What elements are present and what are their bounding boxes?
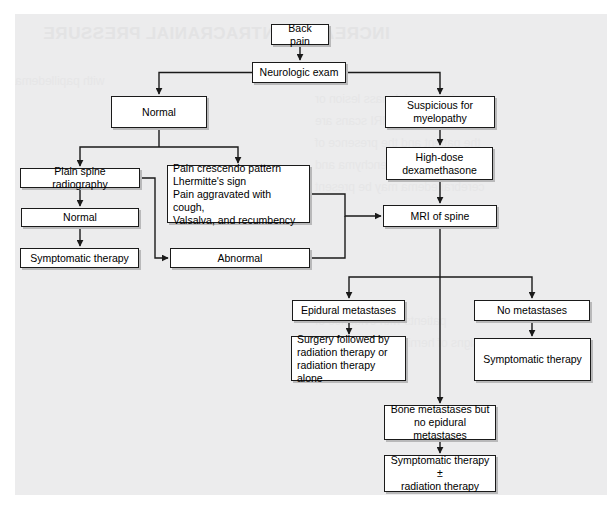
node-label: Symptomatic therapy ± radiation therapy	[390, 454, 490, 493]
node-back-pain[interactable]: Back pain	[271, 24, 329, 45]
node-suspicious-myelopathy[interactable]: Suspicious for myelopathy	[385, 96, 495, 128]
node-label: Epidural metastases	[301, 304, 396, 317]
node-label: Surgery followed by radiation therapy or…	[297, 333, 400, 385]
connector-mri-to-epidural	[349, 277, 440, 298]
node-abnormal[interactable]: Abnormal	[170, 248, 310, 268]
node-label: Bone metastases but no epidural metastas…	[390, 403, 490, 442]
node-label: Pain crescendo pattern Lhermitte's sign …	[173, 162, 304, 227]
connector-mri-to-no-metastases	[440, 277, 532, 298]
node-label: Normal	[142, 106, 176, 119]
flowchart-page: INCREASED INTRACRANIAL PRESSURE with pap…	[0, 0, 613, 508]
connector-normal-to-radiography	[80, 147, 159, 166]
connector-exam-to-normal	[159, 73, 252, 95]
node-plain-spine-radiography[interactable]: Plain spine radiography	[20, 168, 140, 188]
node-label: Back pain	[277, 22, 323, 48]
node-label: Neurologic exam	[260, 66, 339, 79]
node-epidural-metastases[interactable]: Epidural metastases	[292, 300, 405, 321]
node-label: High-dose dexamethasone	[402, 151, 477, 177]
node-label: Suspicious for myelopathy	[407, 99, 473, 125]
node-label: Symptomatic therapy	[483, 353, 582, 366]
connector-redflags-to-mri	[310, 194, 381, 216]
connector-radiography-to-abnormal	[140, 178, 168, 258]
node-symptomatic-therapy-right[interactable]: Symptomatic therapy	[474, 338, 591, 381]
node-label: Abnormal	[218, 252, 263, 265]
connector-exam-to-suspicious	[346, 73, 440, 95]
node-label: Plain spine radiography	[26, 165, 134, 191]
node-normal-top[interactable]: Normal	[111, 96, 207, 128]
node-surgery-radiation[interactable]: Surgery followed by radiation therapy or…	[291, 336, 406, 381]
node-red-flag-symptoms[interactable]: Pain crescendo pattern Lhermitte's sign …	[167, 165, 310, 223]
node-normal-radiography[interactable]: Normal	[21, 208, 139, 227]
node-label: Symptomatic therapy	[30, 252, 129, 265]
node-neurologic-exam[interactable]: Neurologic exam	[252, 62, 346, 83]
flowchart: Back pain Neurologic exam Normal Suspici…	[0, 0, 613, 508]
connector-abnormal-to-mri	[310, 216, 345, 258]
node-symptomatic-therapy-left[interactable]: Symptomatic therapy	[20, 248, 139, 268]
node-label: No metastases	[497, 304, 567, 317]
node-label: MRI of spine	[411, 210, 470, 223]
node-mri-of-spine[interactable]: MRI of spine	[383, 205, 497, 227]
node-symptomatic-radiation[interactable]: Symptomatic therapy ± radiation therapy	[384, 455, 496, 492]
node-high-dose-dexamethasone[interactable]: High-dose dexamethasone	[386, 147, 493, 180]
node-bone-metastases[interactable]: Bone metastases but no epidural metastas…	[384, 405, 496, 440]
node-no-metastases[interactable]: No metastases	[474, 300, 590, 321]
node-label: Normal	[63, 211, 97, 224]
